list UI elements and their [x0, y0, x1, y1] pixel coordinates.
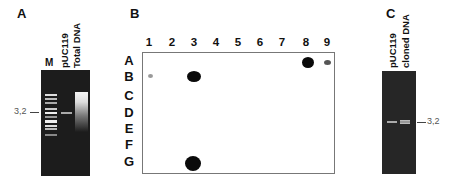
size-marker-label-a: 3,2 [14, 106, 27, 116]
marker-ladder [45, 70, 57, 176]
size-marker-tick-a [30, 112, 39, 113]
column-3: 3 [188, 36, 200, 48]
column-1: 1 [143, 36, 155, 48]
dot-blot-membrane [142, 52, 335, 174]
lane-label-puc119: pUC119 [60, 33, 70, 68]
lane-label-total-dna: Total DNA [72, 23, 82, 68]
row-a: A [122, 54, 136, 68]
column-5: 5 [232, 36, 244, 48]
total-dna-smear [75, 92, 88, 132]
lane-label-cloned-dna: cloned DNA [401, 14, 411, 68]
row-e: E [122, 122, 136, 136]
spot-b3 [187, 71, 201, 82]
panel-c-letter: C [386, 6, 395, 21]
size-marker-label-c: 3,2 [427, 116, 440, 126]
puc119-band-c [387, 121, 397, 123]
column-4: 4 [210, 36, 222, 48]
panel-b-letter: B [130, 6, 139, 21]
size-marker-tick-c [417, 122, 426, 123]
spot-a8 [302, 57, 314, 68]
column-7: 7 [276, 36, 288, 48]
puc119-band [61, 112, 72, 114]
spot-a9 [324, 60, 331, 65]
column-9: 9 [321, 36, 333, 48]
panel-a-letter: A [17, 6, 26, 21]
spot-g3 [185, 156, 201, 171]
lane-label-marker: M [45, 58, 53, 68]
gel-c [382, 71, 416, 174]
row-b: B [122, 70, 136, 84]
spot-b1 [148, 74, 153, 78]
lane-label-puc119-c: pUC119 [388, 33, 398, 68]
column-2: 2 [166, 36, 178, 48]
column-6: 6 [254, 36, 266, 48]
gel-a [41, 70, 90, 176]
row-f: F [122, 138, 136, 152]
column-8: 8 [300, 36, 312, 48]
row-c: C [122, 89, 136, 103]
row-d: D [122, 106, 136, 120]
cloned-dna-band [400, 120, 410, 124]
row-g: G [122, 155, 136, 169]
